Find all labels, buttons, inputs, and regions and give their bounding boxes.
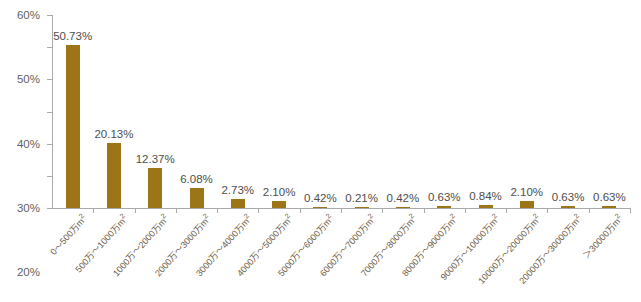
- x-axis-tick: [506, 208, 507, 213]
- bar-value-label: 0.84%: [469, 190, 502, 202]
- x-axis-tick: [258, 208, 259, 213]
- y-axis-tick: 30%: [47, 112, 52, 113]
- y-axis-tick: 20%: [47, 144, 52, 145]
- bar-value-label: 2.73%: [221, 184, 254, 196]
- y-axis-tick: 50%: [47, 47, 52, 48]
- x-axis-tick: [217, 208, 218, 213]
- x-axis-tick: [630, 208, 631, 213]
- bar-value-label: 0.63%: [552, 191, 585, 203]
- bar: [231, 199, 245, 208]
- x-axis-tick: [547, 208, 548, 213]
- bar: [396, 207, 410, 209]
- bar-chart: 0%10%20%30%40%50%60%50.73%20.13%12.37%6.…: [0, 0, 641, 302]
- bar-value-label: 12.37%: [136, 153, 175, 165]
- bar: [437, 206, 451, 208]
- bar-value-label: 6.08%: [180, 173, 213, 185]
- bar: [107, 143, 121, 208]
- x-axis-tick: [135, 208, 136, 213]
- x-axis-tick: [176, 208, 177, 213]
- x-axis-tick: [300, 208, 301, 213]
- y-axis-tick-label: 60%: [17, 9, 40, 21]
- bar: [272, 201, 286, 208]
- y-axis-tick-label: 40%: [17, 138, 40, 150]
- x-axis-tick: [93, 208, 94, 213]
- bar-value-label: 2.10%: [263, 186, 296, 198]
- x-axis-tick: [465, 208, 466, 213]
- y-axis-tick-label: 20%: [17, 266, 40, 278]
- y-axis-tick: 10%: [47, 176, 52, 177]
- x-axis-tick: [341, 208, 342, 213]
- bar-value-label: 0.63%: [593, 191, 626, 203]
- x-axis-tick: [589, 208, 590, 213]
- bar-value-label: 0.63%: [428, 191, 461, 203]
- x-axis-tick: [382, 208, 383, 213]
- y-axis-tick: 0%: [47, 208, 52, 209]
- y-axis-tick: 40%: [47, 79, 52, 80]
- y-axis-tick-label: 50%: [17, 73, 40, 85]
- x-axis-tick: [424, 208, 425, 213]
- bar-value-label: 0.42%: [387, 192, 420, 204]
- y-axis-tick: 60%: [47, 15, 52, 16]
- bar: [66, 45, 80, 208]
- bar: [602, 206, 616, 208]
- bar-value-label: 0.21%: [345, 192, 378, 204]
- bar: [190, 188, 204, 208]
- bar-value-label: 50.73%: [53, 30, 92, 42]
- bar-value-label: 20.13%: [94, 128, 133, 140]
- bar-value-label: 2.10%: [510, 186, 543, 198]
- bar-value-label: 0.42%: [304, 192, 337, 204]
- bar: [520, 201, 534, 208]
- plot-area: 0%10%20%30%40%50%60%50.73%20.13%12.37%6.…: [52, 15, 630, 208]
- bar: [148, 168, 162, 208]
- bar: [313, 207, 327, 209]
- x-axis-category-label: 0～500万m2: [47, 212, 90, 257]
- bar: [561, 206, 575, 208]
- x-axis-category-label: ＞30000万m2: [580, 212, 626, 261]
- bar: [479, 205, 493, 208]
- y-axis-tick-label: 30%: [17, 202, 40, 214]
- bar: [355, 207, 369, 209]
